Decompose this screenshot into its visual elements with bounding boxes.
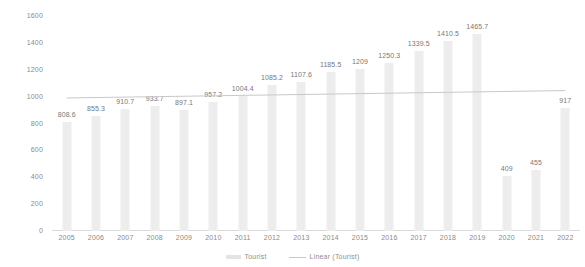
bar-data-label: 1185.5 bbox=[320, 61, 342, 69]
bar[interactable] bbox=[91, 116, 100, 231]
bar[interactable] bbox=[150, 106, 159, 231]
y-axis-tick: 1400 bbox=[27, 39, 43, 47]
bar[interactable] bbox=[414, 51, 423, 231]
bar-slot: 1250.3 bbox=[375, 16, 404, 231]
x-axis-tick: 2017 bbox=[410, 233, 426, 242]
chart-legend: Tourist Linear (Tourist) bbox=[0, 250, 585, 264]
bar[interactable] bbox=[267, 85, 276, 231]
bar-slot: 917 bbox=[551, 16, 580, 231]
legend-item-linear-tourist[interactable]: Linear (Tourist) bbox=[289, 253, 360, 261]
bar-data-label: 933.7 bbox=[146, 95, 164, 103]
y-axis-tick: 400 bbox=[31, 173, 43, 181]
bar[interactable] bbox=[502, 176, 511, 231]
bar-slot: 808.6 bbox=[52, 16, 81, 231]
x-axis-tick: 2005 bbox=[58, 233, 74, 242]
bar-data-label: 409 bbox=[501, 165, 513, 173]
x-axis-tick: 2015 bbox=[352, 233, 368, 242]
bar[interactable] bbox=[561, 108, 570, 231]
bar-data-label: 1465.7 bbox=[466, 23, 488, 31]
bar-slot: 1410.5 bbox=[433, 16, 462, 231]
x-axis-tick: 2007 bbox=[117, 233, 133, 242]
y-axis-tick: 0 bbox=[39, 227, 43, 235]
legend-label-linear-tourist: Linear (Tourist) bbox=[310, 253, 360, 261]
x-axis-tick: 2006 bbox=[88, 233, 104, 242]
x-axis-tick: 2022 bbox=[557, 233, 573, 242]
bar-data-label: 1209 bbox=[352, 58, 368, 66]
bar-data-label: 1410.5 bbox=[437, 30, 459, 38]
bar-data-label: 957.2 bbox=[204, 91, 222, 99]
bar[interactable] bbox=[179, 110, 188, 231]
x-axis-tick: 2016 bbox=[381, 233, 397, 242]
bar-data-label: 855.3 bbox=[87, 105, 105, 113]
bar[interactable] bbox=[531, 170, 540, 231]
bar-data-label: 1085.2 bbox=[261, 74, 283, 82]
bar-slot: 855.3 bbox=[81, 16, 110, 231]
legend-item-tourist[interactable]: Tourist bbox=[226, 253, 267, 261]
bar[interactable] bbox=[209, 102, 218, 231]
y-axis-tick: 800 bbox=[31, 120, 43, 128]
bar-slot: 1004.4 bbox=[228, 16, 257, 231]
bar-data-label: 910.7 bbox=[116, 98, 134, 106]
x-axis-tick: 2010 bbox=[205, 233, 221, 242]
bar-slot: 1339.5 bbox=[404, 16, 433, 231]
bar-slot: 1185.5 bbox=[316, 16, 345, 231]
x-axis-tick: 2011 bbox=[235, 233, 251, 242]
bar[interactable] bbox=[355, 69, 364, 231]
bar-data-label: 1107.6 bbox=[291, 71, 313, 79]
bar[interactable] bbox=[473, 34, 482, 231]
y-axis: 02004006008001000120014001600 bbox=[0, 0, 52, 267]
bar[interactable] bbox=[443, 41, 452, 231]
bar[interactable] bbox=[238, 96, 247, 231]
bar-slot: 957.2 bbox=[199, 16, 228, 231]
bar-data-label: 917 bbox=[559, 97, 571, 105]
bar-slot: 409 bbox=[492, 16, 521, 231]
bar-data-label: 1004.4 bbox=[232, 85, 254, 93]
x-axis-tick: 2012 bbox=[264, 233, 280, 242]
bar-series-tourist: 808.6855.3910.7933.7897.1957.21004.41085… bbox=[52, 16, 580, 231]
bar-slot: 1107.6 bbox=[287, 16, 316, 231]
y-axis-tick: 200 bbox=[31, 200, 43, 208]
legend-label-tourist: Tourist bbox=[245, 253, 267, 261]
bar-data-label: 808.6 bbox=[58, 111, 76, 119]
x-axis-tick: 2008 bbox=[146, 233, 162, 242]
y-axis-tick: 600 bbox=[31, 146, 43, 154]
x-axis-tick: 2013 bbox=[293, 233, 309, 242]
x-axis-tick: 2020 bbox=[498, 233, 514, 242]
x-axis-tick: 2009 bbox=[176, 233, 192, 242]
bar[interactable] bbox=[121, 109, 130, 231]
bar-data-label: 455 bbox=[530, 159, 542, 167]
bar[interactable] bbox=[297, 82, 306, 231]
y-axis-tick: 1600 bbox=[27, 12, 43, 20]
bar[interactable] bbox=[62, 122, 71, 231]
x-axis-tick: 2018 bbox=[440, 233, 456, 242]
bar-swatch-icon bbox=[226, 255, 241, 259]
bar-slot: 897.1 bbox=[169, 16, 198, 231]
bar-data-label: 1250.3 bbox=[378, 52, 400, 60]
bar-data-label: 897.1 bbox=[175, 99, 193, 107]
tourist-bar-chart: 02004006008001000120014001600 808.6855.3… bbox=[0, 0, 585, 267]
bar-slot: 933.7 bbox=[140, 16, 169, 231]
bar-slot: 1085.2 bbox=[257, 16, 286, 231]
bar-slot: 910.7 bbox=[111, 16, 140, 231]
x-axis-tick: 2019 bbox=[469, 233, 485, 242]
x-axis: 2005200620072008200920102011201220132014… bbox=[52, 233, 580, 247]
x-axis-tick: 2014 bbox=[322, 233, 338, 242]
y-axis-tick: 1000 bbox=[27, 93, 43, 101]
bar[interactable] bbox=[326, 72, 335, 231]
plot-area: 808.6855.3910.7933.7897.1957.21004.41085… bbox=[52, 16, 580, 231]
bar-slot: 455 bbox=[521, 16, 550, 231]
bar-data-label: 1339.5 bbox=[408, 40, 430, 48]
line-swatch-icon bbox=[289, 257, 306, 258]
y-axis-tick: 1200 bbox=[27, 66, 43, 74]
bar-slot: 1465.7 bbox=[463, 16, 492, 231]
bar[interactable] bbox=[385, 63, 394, 231]
x-axis-tick: 2021 bbox=[528, 233, 544, 242]
bar-slot: 1209 bbox=[345, 16, 374, 231]
